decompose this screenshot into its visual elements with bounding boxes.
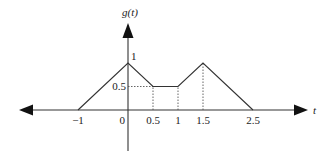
x-axis-right-arrow-icon <box>294 105 308 116</box>
y-axis-up-arrow-icon <box>123 23 134 38</box>
y-axis-label: g(t) <box>122 6 138 19</box>
x-tick-label: −1 <box>72 114 84 126</box>
y-tick-label: 1 <box>131 50 137 62</box>
signal-line <box>78 63 253 110</box>
x-tick-label: 1 <box>175 114 181 126</box>
x-tick-label: 2.5 <box>246 114 260 126</box>
x-axis-label: t <box>313 104 317 116</box>
x-tick-label: 0.5 <box>146 114 160 126</box>
x-tick-label: 1.5 <box>196 114 210 126</box>
y-tick-label: 0.5 <box>112 80 126 92</box>
signal-diagram: g(t) t −100.511.52.5 10.5 <box>0 0 329 157</box>
x-axis-left-arrow-icon <box>19 105 33 116</box>
x-tick-label: 0 <box>120 114 126 126</box>
